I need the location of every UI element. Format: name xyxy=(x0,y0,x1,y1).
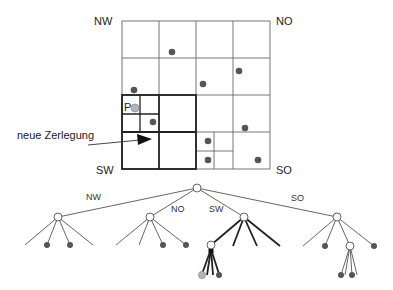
tree-root-node xyxy=(193,184,201,192)
data-point xyxy=(205,138,212,145)
tree-label-sw: SW xyxy=(209,204,224,214)
label-so: SO xyxy=(276,164,292,176)
label-no: NO xyxy=(276,15,293,27)
data-point xyxy=(200,81,207,88)
quadtree-tree xyxy=(25,188,374,275)
tree-node-sw-sub xyxy=(207,241,215,249)
leaf-query-point-p xyxy=(198,271,205,278)
data-point xyxy=(131,87,138,94)
annotation-arrow-line xyxy=(88,140,140,145)
annotation-text: neue Zerlegung xyxy=(17,129,94,141)
point-p-label: P xyxy=(124,101,131,113)
leaf-point xyxy=(216,272,222,278)
leaf-point xyxy=(322,243,328,249)
tree-label-no: NO xyxy=(171,204,185,214)
data-point xyxy=(236,68,243,75)
arrow-head-icon xyxy=(137,134,152,145)
data-point xyxy=(169,49,176,56)
leaf-point xyxy=(371,243,377,249)
tree-label-so: SO xyxy=(291,193,304,203)
label-sw: SW xyxy=(96,164,114,176)
tree-label-nw: NW xyxy=(86,192,101,202)
data-point xyxy=(205,157,212,164)
leaf-point xyxy=(160,242,166,248)
tree-node-so xyxy=(333,213,341,221)
query-point-p xyxy=(131,104,139,112)
tree-node-sw xyxy=(240,213,248,221)
data-point xyxy=(242,125,249,132)
quadtree-diagram: P NW NO SW SO neue Zerlegung xyxy=(0,0,393,290)
leaf-point xyxy=(183,242,189,248)
leaf-point xyxy=(67,242,73,248)
leaf-point xyxy=(44,242,50,248)
tree-node-sw-junction xyxy=(209,249,214,253)
tree-node-no xyxy=(146,213,154,221)
tree-node-so-sub xyxy=(346,242,354,250)
leaf-point xyxy=(338,272,344,278)
tree-node-nw xyxy=(54,213,62,221)
data-point xyxy=(255,157,262,164)
label-nw: NW xyxy=(94,15,113,27)
leaf-point xyxy=(349,272,355,278)
data-point xyxy=(150,119,157,126)
